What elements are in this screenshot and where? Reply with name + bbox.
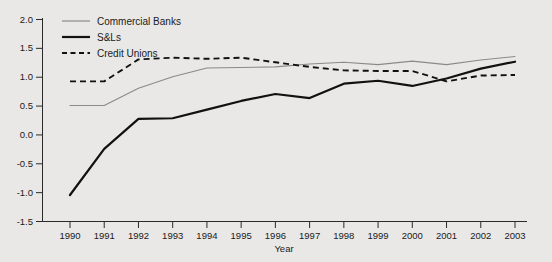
legend-label-credit-unions: Credit Unions bbox=[97, 48, 158, 59]
y-tick-label: 1.5 bbox=[20, 42, 33, 53]
x-axis-title: Year bbox=[274, 243, 293, 254]
x-tick-label: 1993 bbox=[162, 230, 183, 241]
x-tick-label: 1995 bbox=[231, 230, 252, 241]
chart-background bbox=[0, 0, 552, 262]
chart-container: 2.01.51.00.50.0-0.5-1.0-1.5 199019911992… bbox=[0, 0, 552, 262]
x-tick-label: 1997 bbox=[299, 230, 320, 241]
y-tick-label: -0.5 bbox=[17, 158, 33, 169]
x-tick-label: 2003 bbox=[504, 230, 525, 241]
x-tick-label: 1991 bbox=[94, 230, 115, 241]
x-tick-label: 1996 bbox=[265, 230, 286, 241]
line-chart: 2.01.51.00.50.0-0.5-1.0-1.5 199019911992… bbox=[0, 0, 552, 262]
x-tick-label: 2000 bbox=[402, 230, 423, 241]
x-tick-label: 1992 bbox=[128, 230, 149, 241]
x-tick-label: 1990 bbox=[59, 230, 80, 241]
y-tick-label: 0.5 bbox=[20, 100, 33, 111]
y-tick-label: -1.0 bbox=[17, 187, 33, 198]
y-tick-label: 0.0 bbox=[20, 129, 33, 140]
x-tick-label: 1999 bbox=[368, 230, 389, 241]
y-tick-label: 1.0 bbox=[20, 71, 33, 82]
x-tick-label: 1994 bbox=[196, 230, 217, 241]
x-tick-label: 2002 bbox=[470, 230, 491, 241]
y-tick-label: 2.0 bbox=[20, 14, 33, 25]
x-tick-label: 2001 bbox=[436, 230, 457, 241]
y-tick-label: -1.5 bbox=[17, 216, 33, 227]
x-tick-label: 1998 bbox=[333, 230, 354, 241]
legend-label-commercial-banks: Commercial Banks bbox=[97, 16, 181, 27]
legend-label-sls: S&Ls bbox=[97, 32, 121, 43]
